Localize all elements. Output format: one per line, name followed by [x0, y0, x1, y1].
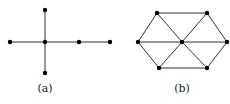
edge-b_center-b_topleft	[157, 13, 182, 42]
node-b_topright	[205, 11, 209, 15]
edge-b_center-b_bottomleft	[159, 42, 182, 68]
node-a_left	[8, 40, 12, 44]
edge-b_topright-b_right	[207, 13, 227, 42]
edge-b_center-b_topright	[182, 13, 207, 42]
node-a_right1	[77, 40, 81, 44]
node-a_top	[43, 8, 47, 12]
edge-b_left-b_topleft	[138, 13, 157, 42]
figure-b-hexagon-wheel-graph: (b)	[136, 11, 229, 95]
edge-b_center-b_bottomright	[182, 42, 207, 68]
node-a_right2	[108, 40, 112, 44]
node-b_bottomright	[205, 66, 209, 70]
node-b_left	[136, 40, 140, 44]
figure-b-nodes	[136, 11, 229, 70]
node-b_right	[225, 40, 229, 44]
figure-a-caption: (a)	[37, 82, 52, 95]
node-a_bottom	[43, 71, 47, 75]
edge-b_bottomleft-b_left	[138, 42, 159, 68]
node-b_bottomleft	[157, 66, 161, 70]
figure-a-edges	[10, 10, 110, 73]
node-a_center	[43, 40, 47, 44]
figure-a-tree-graph: (a)	[8, 8, 112, 95]
node-b_center	[180, 40, 184, 44]
node-b_topleft	[155, 11, 159, 15]
graph-diagram: (a) (b)	[0, 0, 230, 104]
edge-b_right-b_bottomright	[207, 42, 227, 68]
figure-b-caption: (b)	[174, 82, 190, 95]
